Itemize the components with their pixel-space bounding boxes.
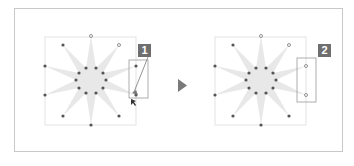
next-step-arrow-icon [178,79,187,92]
cursor-icon [131,99,136,106]
star-shape [45,36,136,125]
step-badge-2: 2 [318,44,331,57]
hollow-vertex [288,44,291,47]
diagram-canvas [0,0,354,166]
step-badge-1: 1 [138,44,151,57]
selection-marquee [129,60,148,98]
hollow-vertex [118,44,121,47]
panel-2 [213,35,316,127]
hollow-vertex [260,35,263,38]
star-shape [215,36,306,125]
panel-1 [43,35,148,127]
hollow-vertex [90,35,93,38]
selected-vertex [305,65,308,68]
selected-vertex [305,94,308,97]
